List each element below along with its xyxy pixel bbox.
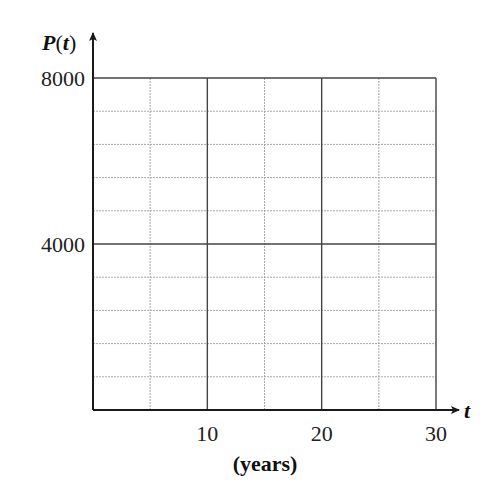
x-tick-label: 10 <box>196 421 218 446</box>
x-tick-labels: 102030 <box>196 421 447 446</box>
y-axis-title: P(t) <box>41 30 76 55</box>
y-tick-labels: 40008000 <box>41 66 85 257</box>
axes <box>93 33 459 410</box>
x-tick-label: 20 <box>311 421 333 446</box>
y-tick-label: 4000 <box>41 232 85 257</box>
x-tick-label: 30 <box>425 421 447 446</box>
x-axis-variable: t <box>464 398 471 423</box>
chart: 102030 40008000 P(t) t (years) <box>0 0 504 503</box>
x-axis-title: (years) <box>233 451 298 476</box>
y-tick-label: 8000 <box>41 66 85 91</box>
